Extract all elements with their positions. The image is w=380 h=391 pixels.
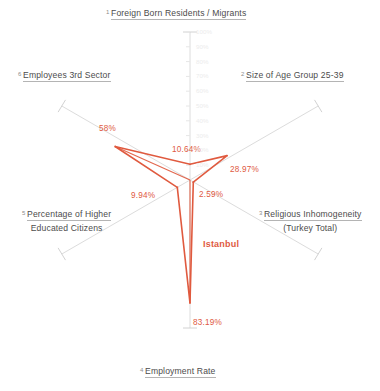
value-label-axis-3: 2.59%: [199, 190, 223, 199]
radar-series-polygon-istanbul: [115, 147, 227, 304]
vertex-axis-3: [192, 181, 194, 183]
axis-title-3: Religious Inhomogeneity: [264, 209, 362, 221]
scale-label-90: 90%: [196, 43, 209, 50]
axis-label-2-size-of-age-group: 2Size of Age Group 25-39: [241, 68, 344, 81]
scale-label-10: 10%: [196, 161, 209, 168]
scale-label-80: 80%: [196, 58, 209, 65]
axis-subtitle-3: (Turkey Total): [259, 220, 362, 234]
axis-title-1: Foreign Born Residents / Migrants: [111, 8, 246, 20]
vertex-axis-1: [189, 163, 191, 165]
axis-title-4: Employment Rate: [145, 366, 216, 378]
value-label-axis-2: 28.97%: [230, 165, 259, 174]
scale-label-30: 30%: [196, 132, 209, 139]
value-label-axis-6: 58%: [99, 124, 116, 133]
spoke-axis-6: [62, 106, 190, 180]
axis-label-4-employment-rate: 4Employment Rate: [140, 364, 216, 377]
value-label-axis-5: 9.94%: [131, 191, 155, 200]
axis-title-5: Percentage of Higher: [27, 209, 111, 221]
vertex-axis-5: [176, 187, 178, 189]
scale-label-50: 50%: [196, 102, 209, 109]
scale-label-70: 70%: [196, 72, 209, 79]
endcap-axis-5: [58, 248, 65, 260]
scale-label-100: 100%: [196, 28, 212, 35]
axis-label-5-percentage-higher-educated: 5Percentage of Higher Educated Citizens: [22, 207, 111, 234]
radar-series-spurs: [115, 147, 190, 304]
endcap-axis-3: [315, 248, 322, 260]
axis-label-6-employees-3rd-sector: 6Employees 3rd Sector: [18, 68, 111, 81]
axis-label-1-foreign-born-residents: 1Foreign Born Residents / Migrants: [106, 6, 246, 19]
axis-title-6: Employees 3rd Sector: [23, 70, 111, 82]
vertex-axis-6: [114, 146, 116, 148]
axis-label-3-religious-inhomogeneity: 3Religious Inhomogeneity (Turkey Total): [259, 207, 362, 234]
scale-label-20: 20%: [196, 146, 209, 153]
vertex-axis-2: [226, 155, 228, 157]
endcap-axis-6: [58, 100, 65, 112]
vertex-axis-4: [189, 302, 191, 304]
axis-subtitle-5: Educated Citizens: [22, 220, 111, 234]
series-label-istanbul: Istanbul: [203, 239, 239, 249]
radar-chart-svg: [0, 0, 380, 391]
endcap-axis-2: [315, 100, 322, 112]
scale-label-60: 60%: [196, 87, 209, 94]
radar-chart-container: 1Foreign Born Residents / Migrants 2Size…: [0, 0, 380, 391]
scale-label-40: 40%: [196, 117, 209, 124]
value-label-axis-4: 83.19%: [193, 318, 222, 327]
axis-title-2: Size of Age Group 25-39: [246, 70, 344, 82]
